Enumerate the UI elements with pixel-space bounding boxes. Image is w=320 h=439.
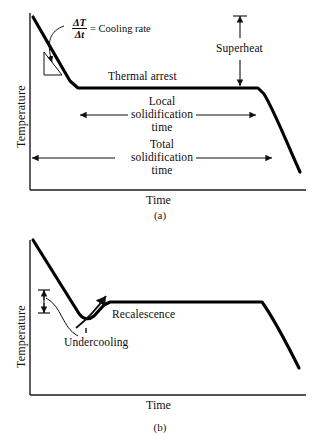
panel-a-caption: (a) [0, 209, 320, 221]
cooling-rate-annotation: ΔT Δt = Cooling rate [72, 17, 151, 40]
cooling-curve-chart-a: Temperature ΔT Δt = Cooling rate Superhe… [0, 0, 320, 215]
cooling-rate-equals-text: = Cooling rate [90, 23, 151, 34]
local-solidification-line-1: Local [149, 95, 176, 107]
local-solidification-line-3: time [152, 121, 173, 133]
chart-b-y-axis-label: Temperature [14, 305, 29, 368]
total-solidification-line-2: solidification [131, 151, 193, 163]
total-solidification-line-1: Total [150, 138, 174, 150]
superheat-label: Superheat [216, 42, 263, 55]
total-solidification-line-3: time [152, 164, 173, 176]
panel-b-caption: (b) [0, 421, 320, 433]
chart-a-y-axis-label: Temperature [14, 85, 29, 148]
cooling-curve-chart-b: Temperature Recalescence Undercooling Ti… [0, 228, 320, 439]
chart-a-x-axis-label: Time [146, 193, 171, 208]
recalescence-label: Recalescence [112, 308, 175, 321]
recalescence-arrow [76, 296, 106, 328]
thermal-arrest-label: Thermal arrest [108, 70, 177, 83]
cooling-rate-denominator: Δt [72, 29, 87, 40]
undercooling-label: Undercooling [64, 336, 128, 349]
local-solidification-time-label: Local solidification time [128, 95, 196, 134]
chart-b-x-axis-label: Time [146, 398, 171, 413]
cooling-rate-numerator: ΔT [72, 17, 87, 29]
undercooling-arrow [38, 290, 50, 313]
local-solidification-line-2: solidification [131, 108, 193, 120]
total-solidification-time-label: Total solidification time [128, 138, 196, 177]
